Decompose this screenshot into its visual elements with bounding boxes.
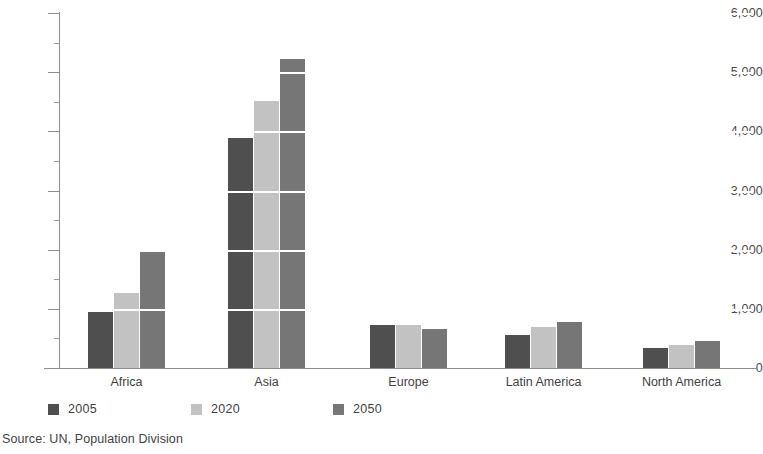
bar-europe-2050 [422, 329, 447, 368]
bar-latin-america-2005 [505, 335, 530, 368]
gridline [60, 191, 752, 193]
bar-latin-america-2020 [531, 327, 556, 368]
bar-europe-2005 [370, 325, 395, 368]
category-label-asia: Asia [197, 375, 337, 389]
gridline [60, 72, 752, 74]
legend-label-2050: 2050 [353, 402, 382, 416]
y-axis-minor-tick [54, 220, 59, 221]
bar-africa-2020 [114, 293, 139, 368]
bar-africa-2005 [88, 312, 113, 368]
bar-north-america-2005 [643, 348, 668, 368]
y-axis-tick [48, 309, 59, 310]
y-axis-minor-tick [54, 161, 59, 162]
population-bar-chart: 01,0002,0003,0004,0005,0006,000 AfricaAs… [0, 0, 763, 454]
gridline [60, 13, 752, 15]
legend-item-2020: 2020 [191, 402, 240, 416]
y-axis-tick [48, 250, 59, 251]
category-label-latin-america: Latin America [474, 375, 614, 389]
legend-item-2050: 2050 [333, 402, 382, 416]
gridline [60, 131, 752, 133]
legend-item-2005: 2005 [48, 402, 97, 416]
bar-europe-2020 [396, 325, 421, 368]
y-axis-minor-tick [54, 279, 59, 280]
category-label-north-america: North America [612, 375, 752, 389]
bar-asia-2050 [280, 59, 305, 368]
category-label-europe: Europe [339, 375, 479, 389]
source-note: Source: UN, Population Division [2, 432, 183, 446]
bar-north-america-2050 [695, 341, 720, 368]
x-axis-line [44, 368, 756, 369]
plot-area [60, 13, 752, 368]
y-axis-minor-tick [54, 43, 59, 44]
legend-label-2020: 2020 [211, 402, 240, 416]
bar-africa-2050 [140, 251, 165, 368]
y-axis-minor-tick [54, 338, 59, 339]
legend-swatch-2005 [48, 404, 59, 415]
bar-north-america-2020 [669, 345, 694, 368]
bar-asia-2005 [228, 138, 253, 368]
bar-asia-2020 [254, 101, 279, 368]
y-axis-tick [48, 72, 59, 73]
legend-swatch-2050 [333, 404, 344, 415]
y-axis-tick [48, 131, 59, 132]
y-axis-tick [48, 13, 59, 14]
bar-latin-america-2050 [557, 322, 582, 368]
legend-label-2005: 2005 [68, 402, 97, 416]
category-label-africa: Africa [57, 375, 197, 389]
y-axis-minor-tick [54, 102, 59, 103]
y-axis-tick [48, 191, 59, 192]
legend-swatch-2020 [191, 404, 202, 415]
